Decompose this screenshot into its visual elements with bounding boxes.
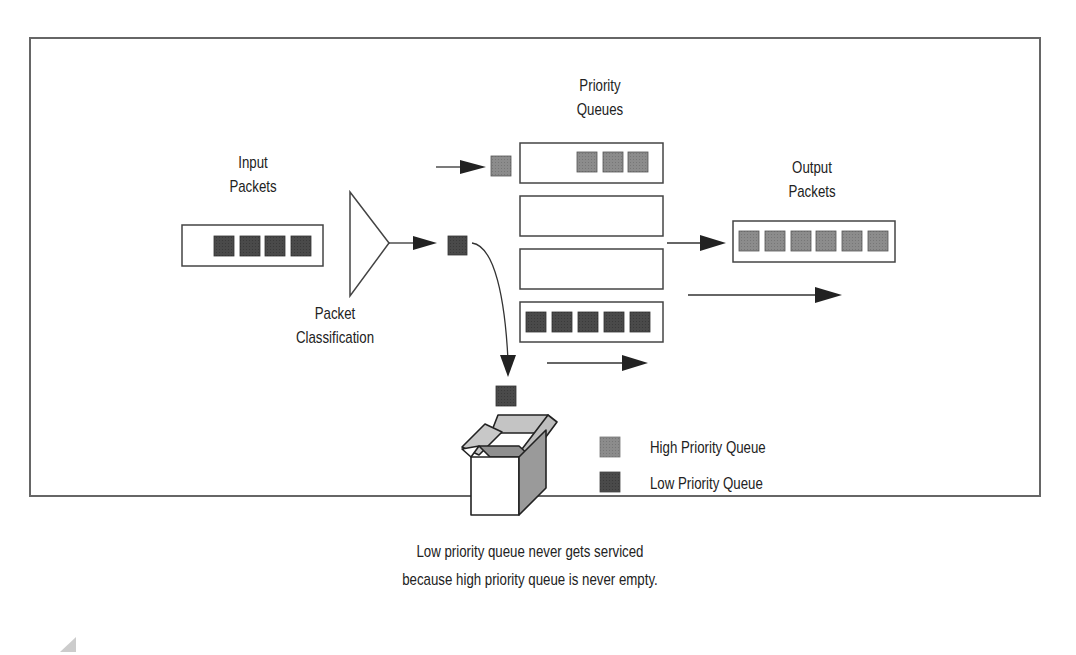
legend-high-priority-label: High Priority Queue	[650, 436, 766, 460]
priority-queue-1-high	[520, 143, 663, 183]
input-packets-label-line-1: Input	[222, 151, 284, 175]
output-arrow	[667, 235, 726, 251]
input-packets-label-line-2: Packets	[222, 175, 284, 199]
incoming-high-priority-packet	[491, 156, 511, 176]
output-packets-queue	[733, 221, 895, 262]
packet-classification-label-line-1: Packet	[280, 302, 389, 326]
output-packets-label-line-1: Output	[781, 156, 843, 180]
legend-swatch-low	[600, 472, 620, 492]
output-packets-label: Output Packets	[781, 156, 843, 204]
discard-arrow	[472, 243, 516, 377]
low-queue-service-arrow	[547, 355, 648, 371]
priority-queues-label: Priority Queues	[569, 74, 631, 122]
output-packets-label-line-2: Packets	[781, 180, 843, 204]
input-packets-label: Input Packets	[222, 151, 284, 199]
legend-swatch-high	[600, 437, 620, 457]
dropped-packet	[496, 386, 516, 406]
packet-classification-label: Packet Classification	[280, 302, 389, 350]
priority-queue-2	[520, 196, 663, 236]
priority-queue-4-low	[520, 302, 663, 342]
legend-low-priority-label: Low Priority Queue	[650, 472, 763, 496]
output-flow-arrow	[688, 287, 842, 303]
caption-line-2: because high priority queue is never emp…	[374, 566, 686, 594]
input-packets-queue	[182, 225, 323, 266]
classified-packet	[448, 236, 467, 255]
priority-queues-label-line-1: Priority	[569, 74, 631, 98]
priority-queue-3	[520, 249, 663, 289]
classifier-triangle-icon	[350, 192, 437, 296]
packet-classification-label-line-2: Classification	[280, 326, 389, 350]
caption-line-1: Low priority queue never gets serviced	[374, 538, 686, 566]
priority-queues-label-line-2: Queues	[569, 98, 631, 122]
high-priority-input-arrow	[436, 160, 486, 174]
figure-caption: Low priority queue never gets serviced b…	[374, 538, 686, 594]
discard-box-icon	[462, 415, 557, 515]
page-corner-mark	[60, 637, 76, 652]
